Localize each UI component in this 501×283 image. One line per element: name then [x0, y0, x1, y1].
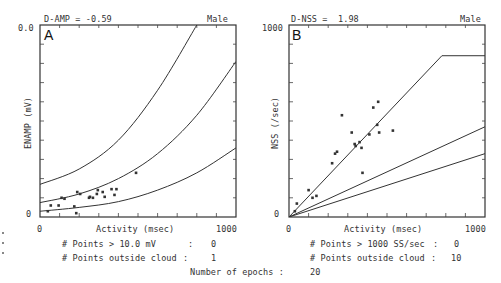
data-point: [60, 197, 63, 200]
panel-a-curve-lower: [40, 148, 236, 211]
data-point: [311, 197, 314, 200]
panel-a-stat1-label: # Points > 10.0 mV: [62, 239, 156, 249]
panel-b-stat2-label: # Points outside cloud: [310, 253, 425, 263]
data-point: [360, 147, 363, 150]
data-point: [294, 210, 297, 213]
data-point: [89, 196, 92, 199]
data-point: [361, 172, 364, 175]
panel-a-sex: Male: [207, 14, 228, 24]
data-point: [63, 197, 66, 200]
data-point: [97, 189, 100, 192]
panel-a-ylabel: ENAMP (mV): [23, 93, 33, 153]
data-point: [57, 204, 60, 207]
data-point: [47, 210, 50, 213]
edge-mark: [2, 252, 4, 254]
edge-mark: [2, 232, 4, 234]
data-point: [73, 205, 76, 208]
data-point: [368, 133, 371, 136]
panel-b-stat2-value: 10: [451, 253, 461, 263]
panel-a-stat2-value: 1: [211, 253, 216, 263]
data-point: [75, 212, 78, 215]
data-point: [341, 114, 344, 117]
panel-b-curve-middle: [289, 127, 485, 217]
panel-a-xlabel: Activity (msec): [96, 224, 174, 234]
data-point: [92, 197, 95, 200]
data-point: [358, 141, 361, 144]
panel-a-stat1-value: 0: [211, 239, 216, 249]
panel-b-xtick-left: 0: [286, 224, 291, 234]
panel-a-xtick-left: 0: [37, 224, 42, 234]
data-point: [376, 124, 379, 127]
panel-b-letter: B: [292, 27, 301, 43]
data-point: [377, 101, 380, 104]
panel-b-axes-frame: [289, 25, 485, 217]
panel-b-xlabel: Activity (msec): [344, 224, 422, 234]
data-point: [336, 150, 339, 153]
panel-b-xtick-right: 1000: [465, 224, 486, 234]
panel-b-ylabel: NSS (/sec): [270, 93, 280, 153]
panel-a-stat2-label: # Points outside cloud: [62, 253, 177, 263]
panel-a-title: D-AMP = -0.59: [44, 14, 112, 24]
panel-a-xtick-right: 1000: [216, 224, 237, 234]
data-point: [392, 129, 395, 132]
panel-b-stat2-sep: :: [431, 253, 436, 263]
data-point: [331, 162, 334, 165]
data-point: [315, 195, 318, 198]
data-point: [101, 191, 104, 194]
panel-b-curve-upper: [289, 56, 485, 217]
data-point: [307, 189, 310, 192]
panel-a-letter: A: [44, 27, 53, 43]
panel-a-ytick-top: 0.0: [18, 23, 34, 33]
data-point: [354, 145, 357, 148]
panel-a-curve-upper: [40, 25, 197, 184]
panel-b-sex: Male: [460, 14, 481, 24]
data-point: [115, 188, 118, 191]
panel-b-ytick-bottom: 0: [274, 209, 279, 219]
data-point: [76, 191, 79, 194]
panel-a-stat2-sep: :: [183, 253, 188, 263]
epochs-value: 20: [310, 267, 320, 277]
data-point: [103, 196, 106, 199]
epochs-label: Number of epochs :: [190, 267, 284, 277]
panel-b-ytick-top: 1000: [262, 23, 283, 33]
data-point: [350, 131, 353, 134]
data-point: [79, 193, 82, 196]
data-point: [135, 172, 138, 175]
data-point: [49, 204, 52, 207]
panel-a-stat1-sep: :: [188, 239, 193, 249]
panel-a-ytick-bottom: 0: [26, 209, 31, 219]
panel-b-title: D-NSS = 1.98: [291, 14, 359, 24]
data-point: [372, 106, 375, 109]
data-point: [96, 193, 99, 196]
panel-b-stat1-sep: :: [433, 239, 438, 249]
panel-b-stat1-label: # Points > 1000 SS/sec: [310, 239, 425, 249]
data-point: [296, 202, 299, 205]
panel-a-axes-frame: [40, 25, 236, 217]
data-point: [110, 188, 113, 191]
data-point: [113, 194, 116, 197]
edge-mark: [2, 242, 4, 244]
panel-a-curve-middle: [40, 61, 236, 202]
panel-b-stat1-value: 0: [454, 239, 459, 249]
data-point: [378, 131, 381, 134]
